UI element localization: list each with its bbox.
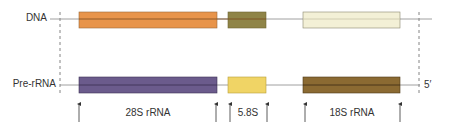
label-28s-rrna: 28S rRNA bbox=[125, 107, 170, 118]
label-5-8s: 5.8S bbox=[238, 107, 259, 118]
dna-segment-18s bbox=[303, 12, 400, 28]
five-prime-label: 5′ bbox=[424, 79, 432, 90]
pre-rrna-label: Pre-rRNA bbox=[13, 78, 57, 89]
rna-segment-5-8s bbox=[228, 77, 266, 93]
rrna-processing-diagram: DNA Pre-rRNA 5′ 28S rRNA 5.8S 18S rRNA bbox=[0, 0, 456, 135]
dna-label: DNA bbox=[26, 12, 47, 23]
dna-segment-5-8s bbox=[228, 12, 266, 28]
dna-segment-28s bbox=[79, 12, 217, 28]
label-18s-rrna: 18S rRNA bbox=[329, 107, 374, 118]
